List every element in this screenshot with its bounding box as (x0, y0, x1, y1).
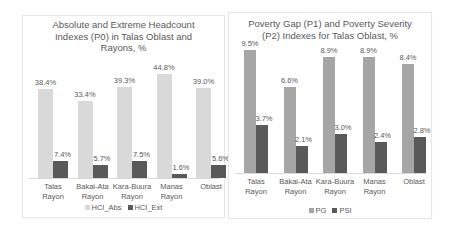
legend-label: PG (316, 206, 327, 215)
data-label: 39.0% (193, 77, 214, 86)
bar-pg (363, 57, 375, 173)
data-label: 2.8% (413, 126, 430, 135)
chart-panel-headcount: Absolute and Extreme Headcount Indexes (… (22, 15, 225, 218)
bar-hci-ext (211, 165, 226, 178)
x-axis-label: Kara-BuuraRayon (316, 177, 354, 196)
data-label: 8.9% (360, 46, 377, 55)
data-label: 38.4% (35, 78, 56, 87)
x-axis-label: Oblast (200, 182, 222, 192)
data-label: 7.4% (54, 150, 71, 159)
legend-poverty-gap: PGPSI (229, 206, 431, 215)
bar-psi (414, 137, 426, 173)
legend-item-hci-ext: HCI_Ext (128, 203, 163, 212)
bar-pg (402, 64, 414, 173)
data-label: 9.5% (241, 39, 258, 48)
data-label: 7.5% (133, 150, 150, 159)
data-label: 8.9% (320, 46, 337, 55)
x-axis-label: Bakai-AtaRayon (279, 177, 312, 196)
data-label: 3.0% (334, 123, 351, 132)
bar-psi (335, 134, 347, 173)
legend-label: HCI_Ext (135, 203, 163, 212)
x-axis-label: ManasRayon (363, 177, 386, 196)
bar-psi (375, 142, 387, 173)
bar-pg (323, 57, 335, 173)
plot-area-headcount: 38.4%7.4%TalasRayon33.4%5.7%Bakai-AtaRay… (23, 16, 226, 219)
data-label: 2.4% (374, 131, 391, 140)
x-axis-line (235, 173, 427, 174)
legend-item-hci-abs: HCI_Abs (85, 203, 122, 212)
data-label: 5.6% (212, 154, 229, 163)
bar-psi (256, 125, 268, 173)
bar-hci-ext (53, 161, 68, 178)
bar-hci-ext (93, 165, 108, 178)
legend-swatch-icon (85, 205, 90, 210)
bar-psi (296, 146, 308, 173)
legend-label: PSI (339, 206, 351, 215)
x-axis-line (29, 178, 220, 179)
data-label: 2.1% (295, 135, 312, 144)
bar-hci-abs (157, 74, 172, 178)
data-label: 1.6% (172, 163, 189, 172)
x-axis-label: Bakai-AtaRayon (76, 182, 109, 201)
legend-swatch-icon (309, 208, 314, 213)
x-axis-label: TalasRayon (245, 177, 267, 196)
bar-pg (284, 87, 296, 173)
legend-headcount: HCI_AbsHCI_Ext (23, 203, 224, 212)
x-axis-label: Oblast (403, 177, 425, 187)
chart-panel-poverty-gap: Poverty Gap (P1) and Poverty Severity (P… (228, 12, 432, 219)
bar-hci-abs (78, 101, 93, 178)
bar-hci-ext (172, 174, 187, 178)
data-label: 5.7% (93, 154, 110, 163)
bar-hci-abs (196, 88, 211, 178)
legend-swatch-icon (332, 208, 337, 213)
plot-area-poverty-gap: 9.5%3.7%TalasRayon6.6%2.1%Bakai-AtaRayon… (229, 13, 433, 220)
bar-hci-abs (117, 87, 132, 178)
data-label: 44.8% (153, 63, 174, 72)
bar-hci-ext (132, 161, 147, 178)
legend-label: HCI_Abs (92, 203, 122, 212)
data-label: 6.6% (281, 76, 298, 85)
bar-hci-abs (38, 89, 53, 178)
data-label: 39.3% (114, 76, 135, 85)
legend-swatch-icon (128, 205, 133, 210)
data-label: 33.4% (74, 90, 95, 99)
data-label: 8.4% (399, 53, 416, 62)
legend-item-psi: PSI (332, 206, 351, 215)
x-axis-label: Kara-BuuraRayon (113, 182, 151, 201)
x-axis-label: TalasRayon (42, 182, 64, 201)
legend-item-pg: PG (309, 206, 327, 215)
data-label: 3.7% (255, 114, 272, 123)
bar-pg (244, 50, 256, 174)
x-axis-label: ManasRayon (160, 182, 183, 201)
